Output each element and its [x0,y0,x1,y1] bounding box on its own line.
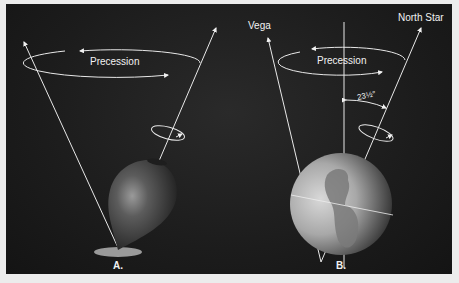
spinning-top-icon [108,160,177,250]
precession-diagram [0,0,459,283]
north-star-label: North Star [398,12,444,23]
tilt-angle-arc [346,100,386,108]
axis-line-left-a [24,42,120,252]
panel-b-label: B. [336,260,346,271]
vega-label: Vega [248,20,271,31]
panel-a-label: A. [113,260,123,271]
precession-label-a: Precession [90,56,139,67]
precession-label-b: Precession [317,55,366,66]
